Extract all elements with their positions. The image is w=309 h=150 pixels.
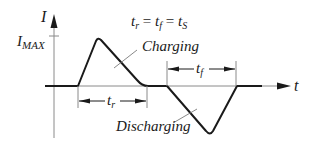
x-axis-arrow-icon [277, 83, 291, 90]
x-axis-label: t [294, 77, 299, 94]
arrow-left-icon [168, 67, 179, 72]
arrow-left-icon [79, 99, 90, 104]
current-waveform-diagram: I IMAX t tr = tf = tS Charging Dischargi… [0, 0, 309, 150]
arrow-right-icon [135, 99, 146, 104]
imax-label: IMAX [16, 33, 46, 51]
y-axis-arrow-icon [51, 14, 58, 28]
discharging-label: Discharging [115, 118, 191, 134]
arrow-right-icon [224, 67, 235, 72]
fall-time-label: tf [196, 60, 204, 78]
y-axis [49, 14, 59, 138]
y-axis-label: I [40, 8, 47, 25]
rise-time-label: tr [107, 92, 115, 110]
equation-label: tr = tf = tS [131, 13, 187, 31]
charging-label: Charging [142, 38, 199, 54]
